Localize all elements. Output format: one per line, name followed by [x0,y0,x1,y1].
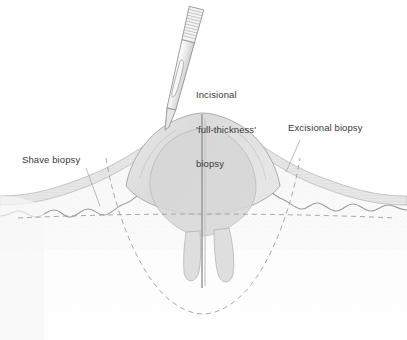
label-shave-biopsy: Shave biopsy [22,154,80,166]
illustration-canvas: Incisional 'full-thickness' biopsy Excis… [0,0,407,340]
label-excisional-biopsy: Excisional biopsy [288,122,363,134]
label-incisional-biopsy: Incisional 'full-thickness' biopsy [196,66,256,193]
label-incisional-line1: Incisional [196,89,256,101]
label-incisional-line2: 'full-thickness' [196,124,256,136]
scalpel-grip [181,6,204,43]
tumor-root-projection-left [184,231,201,281]
label-incisional-line3: biopsy [196,158,256,170]
